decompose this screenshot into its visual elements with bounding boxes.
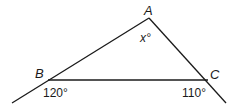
vertex-label-b: B [35, 66, 44, 81]
vertex-label-a: A [143, 3, 153, 18]
angle-label-c-exterior: 110° [182, 86, 206, 100]
vertex-label-c: C [210, 67, 220, 82]
angle-label-b-exterior: 120° [43, 86, 68, 100]
line-ab-extended [12, 18, 149, 103]
angle-label-a: x° [139, 31, 151, 45]
triangle-diagram: A B C x° 120° 110° [0, 0, 228, 106]
